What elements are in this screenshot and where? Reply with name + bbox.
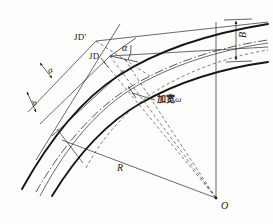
road-curve-widening-drawing xyxy=(0,0,273,224)
angle-alpha-group xyxy=(110,38,138,62)
extension-line-B-top xyxy=(224,19,252,20)
extension-line-B-bottom xyxy=(226,61,252,62)
radial-dashed-a xyxy=(104,62,216,198)
curve-thin-group xyxy=(40,43,268,196)
angle-arc-alpha xyxy=(128,45,131,60)
vertex-cross-line xyxy=(36,24,120,160)
center-point-O xyxy=(215,197,218,200)
dimension-left-group xyxy=(27,63,52,112)
radius-line-R xyxy=(62,140,216,198)
angle-leg-upper xyxy=(110,38,136,56)
curve-original-inner xyxy=(40,43,268,196)
tangent-line-group xyxy=(28,22,268,160)
dimension-arrow-alpha-left xyxy=(40,63,52,78)
tangent-outer-right xyxy=(96,22,268,41)
dimension-arrow-b-left xyxy=(27,92,36,112)
figure-canvas: JD' JD α α b B R O 加宽ω xyxy=(0,0,273,224)
tangent-center-right xyxy=(110,47,268,56)
construction-group xyxy=(86,41,268,198)
radial-dashed-b xyxy=(124,58,216,198)
radial-tick-left xyxy=(57,129,83,163)
